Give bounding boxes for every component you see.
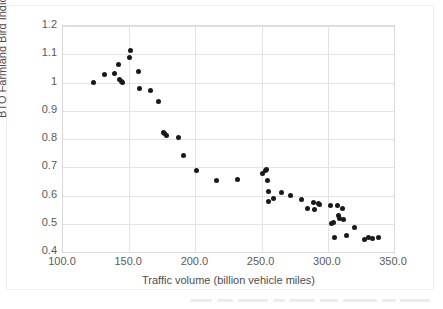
page-background-text-ghost [190,298,440,304]
gridline-horizontal [63,139,394,140]
gridline-horizontal [63,83,394,84]
gridline-horizontal [63,111,394,112]
x-tick-label: 250.0 [247,256,275,267]
data-point [341,217,346,222]
y-axis-title: BTO Farmland Bird Indicator [0,0,8,138]
data-point [376,235,381,240]
data-point [136,69,141,74]
x-tick-label: 150.0 [114,256,142,267]
x-axis-title: Traffic volume (billion vehicle miles) [62,274,395,286]
y-tick-label: 0.9 [42,104,57,115]
scatter-chart-figure: 0.40.50.60.70.80.911.11.2 BTO Farmland B… [0,0,443,309]
data-point [288,193,293,198]
data-point [181,153,186,158]
x-tick-label: 350.0 [379,256,407,267]
data-point [235,177,240,182]
x-tick-label: 300.0 [313,256,341,267]
data-point [164,133,169,138]
data-point [116,62,121,67]
data-point [352,225,357,230]
ghost-text-segment [238,299,268,302]
gridline-horizontal [63,196,394,197]
gridline-vertical [262,26,263,252]
data-point [102,72,107,77]
gridline-horizontal [63,224,394,225]
data-point [299,197,304,202]
data-point [271,196,276,201]
ghost-text-segment [273,299,285,302]
data-point [176,135,181,140]
ghost-text-segment [289,299,315,302]
data-point [214,178,219,183]
y-tick-label: 1 [51,76,57,87]
data-point [279,190,284,195]
data-point [331,220,336,225]
y-tick-label: 1.1 [42,47,57,58]
gridline-horizontal [63,167,394,168]
ghost-text-segment [382,299,396,302]
gridline-vertical [328,26,329,252]
y-tick-label: 0.5 [42,217,57,228]
data-point [317,202,322,207]
ghost-text-segment [190,299,212,302]
data-point [137,86,142,91]
plot-area [62,25,395,253]
data-point [194,168,199,173]
data-point [305,206,310,211]
data-point [112,71,117,76]
data-point [148,88,153,93]
data-point [127,55,132,60]
x-tick-label: 200.0 [181,256,209,267]
x-tick-label: 100.0 [48,256,76,267]
data-point [311,200,316,205]
ghost-text-segment [320,299,338,302]
ghost-text-segment [343,299,377,302]
data-point [156,99,161,104]
ghost-text-segment [400,299,430,302]
y-tick-label: 0.7 [42,160,57,171]
data-point [335,203,340,208]
data-point [312,207,317,212]
data-point [120,80,125,85]
data-point [332,235,337,240]
y-tick-label: 1.2 [42,19,57,30]
data-point [266,189,271,194]
ghost-text-segment [217,299,233,302]
data-point [344,233,349,238]
data-point [265,178,270,183]
gridline-horizontal [63,54,394,55]
data-point [128,48,133,53]
data-point [264,167,269,172]
y-tick-label: 0.6 [42,189,57,200]
data-point [370,236,375,241]
data-point [328,203,333,208]
y-tick-label: 0.8 [42,132,57,143]
gridline-horizontal [63,26,394,27]
data-point [340,206,345,211]
data-point [91,80,96,85]
gridline-vertical [195,26,196,252]
